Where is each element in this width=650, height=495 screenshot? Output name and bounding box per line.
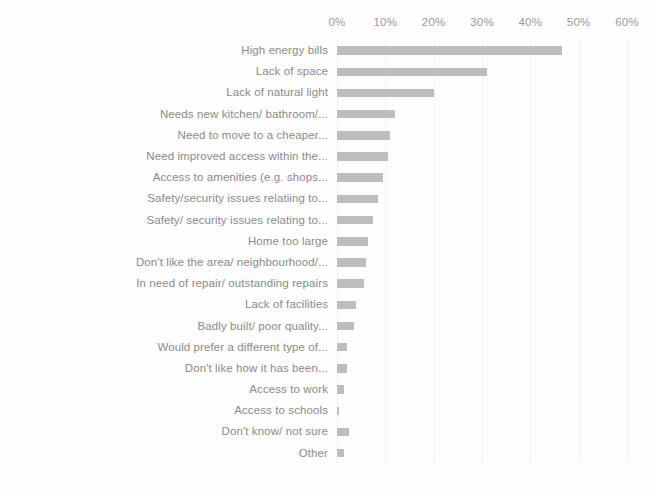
bar-container [337, 188, 378, 209]
bar-row: Don't know/ not sure [0, 421, 650, 442]
bar [337, 152, 388, 161]
bar-container [337, 210, 373, 231]
bar-row: Don't like how it has been... [0, 358, 650, 379]
bar-container [337, 252, 366, 273]
bar-container [337, 125, 390, 146]
bar-container [337, 104, 395, 125]
bar [337, 258, 366, 267]
bar-row: Safety/security issues relatiing to... [0, 188, 650, 209]
bar [337, 407, 339, 416]
bar [337, 195, 378, 204]
category-label: Safety/security issues relatiing to... [0, 192, 328, 205]
bar [337, 322, 354, 331]
bar-row: Lack of facilities [0, 294, 650, 315]
category-label: Needs new kitchen/ bathroom/... [0, 108, 328, 121]
bar [337, 46, 562, 55]
category-label: Would prefer a different type of... [0, 341, 328, 354]
bar-container [337, 400, 339, 421]
category-label: Don't like how it has been... [0, 362, 328, 375]
bar [337, 301, 356, 310]
category-label: Don't like the area/ neighbourhood/... [0, 256, 328, 269]
bar [337, 89, 434, 98]
bar-row: Access to schools [0, 400, 650, 421]
x-axis-tick: 60% [615, 16, 639, 28]
bar [337, 428, 349, 437]
bar-container [337, 167, 383, 188]
category-label: Home too large [0, 235, 328, 248]
bar-row: Lack of space [0, 61, 650, 82]
bar-row: High energy bills [0, 40, 650, 61]
category-label: Lack of facilities [0, 298, 328, 311]
category-label: Need improved access within the... [0, 150, 328, 163]
category-label: In need of repair/ outstanding repairs [0, 277, 328, 290]
bar [337, 364, 347, 373]
x-axis-tick: 10% [374, 16, 398, 28]
bar-container [337, 358, 347, 379]
bar [337, 131, 390, 140]
bar [337, 385, 344, 394]
bar [337, 216, 373, 225]
bar [337, 237, 368, 246]
bar-container [337, 294, 356, 315]
bar-container [337, 40, 562, 61]
bar-row: Need to move to a cheaper... [0, 125, 650, 146]
category-label: Other [0, 447, 328, 460]
bar-row: Badly built/ poor quality... [0, 315, 650, 336]
bar-row: Would prefer a different type of... [0, 337, 650, 358]
bar-container [337, 231, 368, 252]
category-label: Don't know/ not sure [0, 425, 328, 438]
category-label: Access to work [0, 383, 328, 396]
bar [337, 173, 383, 182]
bar-row: Home too large [0, 231, 650, 252]
bar-row: In need of repair/ outstanding repairs [0, 273, 650, 294]
bar-container [337, 82, 434, 103]
bar-container [337, 379, 344, 400]
x-axis-tick: 50% [567, 16, 591, 28]
bar-row: Other [0, 443, 650, 464]
bar [337, 279, 364, 288]
category-label: High energy bills [0, 44, 328, 57]
bar [337, 449, 344, 458]
bar-row: Lack of natural light [0, 82, 650, 103]
bar-rows: High energy billsLack of spaceLack of na… [0, 40, 650, 464]
bar-row: Don't like the area/ neighbourhood/... [0, 252, 650, 273]
bar-row: Safety/ security issues relating to... [0, 210, 650, 231]
bar-container [337, 443, 344, 464]
bar-row: Access to amenities (e.g. shops... [0, 167, 650, 188]
category-label: Badly built/ poor quality... [0, 320, 328, 333]
bar [337, 68, 487, 77]
bar [337, 343, 347, 352]
category-label: Access to amenities (e.g. shops... [0, 171, 328, 184]
bar-container [337, 315, 354, 336]
horizontal-bar-chart: 0%10%20%30%40%50%60% High energy billsLa… [0, 0, 650, 495]
category-label: Access to schools [0, 404, 328, 417]
x-axis-tick: 40% [519, 16, 543, 28]
bar-row: Access to work [0, 379, 650, 400]
bar-container [337, 337, 347, 358]
x-axis-tick-labels: 0%10%20%30%40%50%60% [310, 16, 650, 32]
x-axis-tick: 20% [422, 16, 446, 28]
x-axis-tick: 0% [328, 16, 345, 28]
bar-row: Needs new kitchen/ bathroom/... [0, 104, 650, 125]
x-axis-tick: 30% [470, 16, 494, 28]
bar [337, 110, 395, 119]
bar-container [337, 273, 364, 294]
bar-container [337, 421, 349, 442]
category-label: Safety/ security issues relating to... [0, 214, 328, 227]
category-label: Lack of natural light [0, 86, 328, 99]
bar-row: Need improved access within the... [0, 146, 650, 167]
bar-container [337, 146, 388, 167]
category-label: Lack of space [0, 65, 328, 78]
bar-container [337, 61, 487, 82]
category-label: Need to move to a cheaper... [0, 129, 328, 142]
